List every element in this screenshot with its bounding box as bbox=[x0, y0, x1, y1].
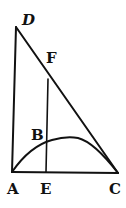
label-point-c: C bbox=[109, 182, 121, 197]
label-point-e: E bbox=[40, 182, 51, 197]
label-point-b: B bbox=[31, 128, 44, 143]
label-point-a: A bbox=[7, 182, 19, 197]
figure-lines bbox=[0, 0, 126, 208]
segment-da bbox=[12, 27, 16, 172]
label-point-f: F bbox=[46, 51, 57, 66]
arc-abc bbox=[12, 137, 118, 173]
segment-ac bbox=[12, 172, 118, 173]
geometric-figure: D F B A E C bbox=[0, 0, 126, 208]
label-point-d: D bbox=[22, 13, 35, 28]
segment-fe bbox=[46, 79, 48, 172]
